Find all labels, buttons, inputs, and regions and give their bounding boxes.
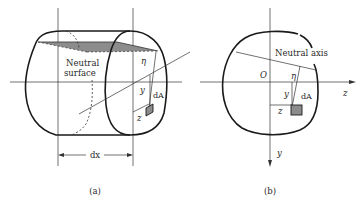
- neutral-axis-label: Neutral axis: [275, 48, 328, 58]
- z-label: z: [136, 113, 142, 123]
- z-axis-arrow-icon: [349, 80, 356, 84]
- da-label: dA: [301, 92, 312, 101]
- figure-b: Neutral axis O η y dA z z y (b): [200, 8, 356, 196]
- caption-b: (b): [264, 186, 276, 196]
- cross-section-outline-tail: [300, 35, 312, 48]
- da-label: dA: [153, 91, 164, 100]
- eta-label: η: [141, 56, 147, 66]
- origin-label: O: [260, 70, 267, 80]
- dx-arrow-right-icon: [127, 153, 133, 157]
- y-axis-label: y: [276, 148, 282, 158]
- z-axis-label: z: [342, 88, 348, 98]
- da-element: [146, 104, 153, 116]
- eta-label: η: [291, 71, 297, 81]
- neutral-surface-label-1: Neutral: [66, 58, 99, 68]
- figure-a: Neutral surface η y dA z dx (a): [10, 8, 190, 196]
- z-inner-label: z: [277, 106, 283, 116]
- dx-label: dx: [90, 150, 100, 160]
- y-inner-label: y: [283, 89, 289, 99]
- dx-arrow-left-icon: [58, 153, 64, 157]
- y-label: y: [139, 85, 145, 95]
- y-axis-arrow-icon: [268, 160, 272, 167]
- caption-a: (a): [89, 186, 101, 196]
- neutral-surface-label-2: surface: [64, 68, 96, 78]
- da-element: [291, 105, 302, 115]
